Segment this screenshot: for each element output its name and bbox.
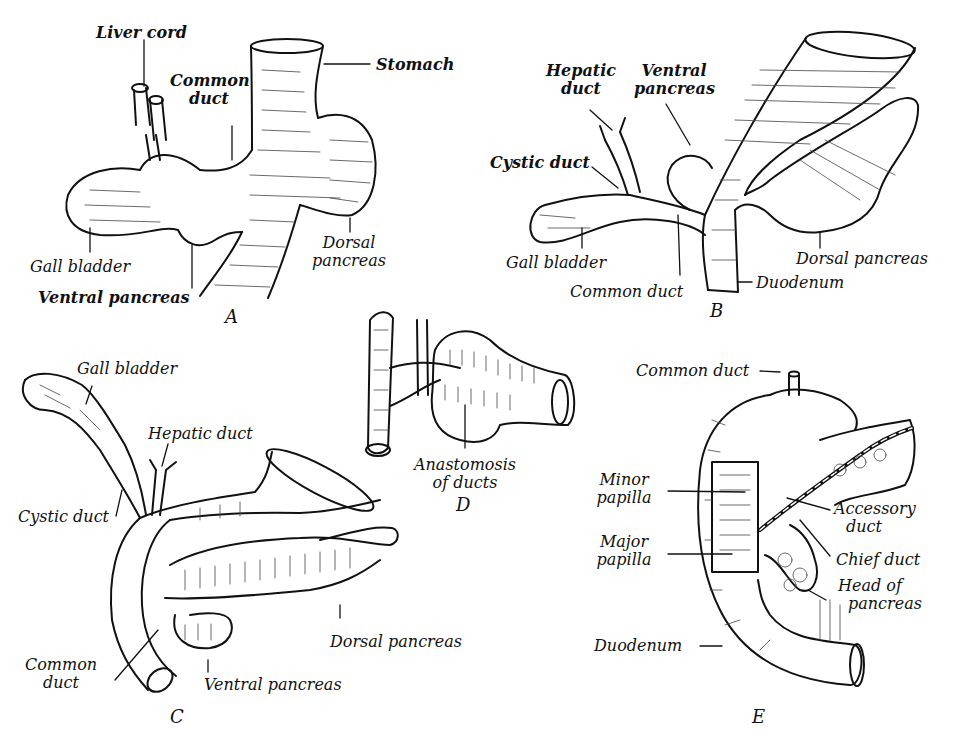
label-a-liver-cord: Liver cord: [96, 24, 187, 42]
label-c-common-duct-line1: Common: [20, 656, 102, 674]
label-e-major-papilla-line2: papilla: [586, 551, 662, 569]
label-b-dorsal-pancreas: Dorsal pancreas: [796, 250, 928, 268]
label-e-duodenum: Duodenum: [594, 637, 682, 655]
label-c-cystic-duct: Cystic duct: [18, 508, 109, 526]
label-e-head-of-pancreas-line2: pancreas: [838, 595, 922, 613]
label-a-dorsal-pancreas-line1: Dorsal: [308, 234, 390, 252]
label-c-gall-bladder: Gall bladder: [77, 360, 177, 378]
label-e-major-papilla: Major papilla: [586, 533, 662, 569]
label-e-head-of-pancreas-line1: Head of: [838, 577, 922, 595]
label-b-hepatic-duct: Hepatic duct: [546, 62, 616, 98]
label-a-gall-bladder: Gall bladder: [30, 258, 130, 276]
label-e-minor-papilla-line2: papilla: [586, 489, 662, 507]
label-b-hepatic-duct-line2: duct: [546, 80, 616, 98]
label-c-dorsal-pancreas: Dorsal pancreas: [330, 633, 462, 651]
label-a-common-duct: Common duct: [170, 72, 248, 108]
label-d-anastomosis: Anastomosis of ducts: [410, 456, 520, 492]
label-b-ventral-pancreas: Ventral pancreas: [634, 62, 714, 98]
label-e-chief-duct: Chief duct: [836, 551, 920, 569]
label-b-common-duct: Common duct: [570, 283, 683, 301]
label-c-hepatic-duct: Hepatic duct: [148, 425, 253, 443]
panel-letter-b: B: [710, 300, 723, 321]
label-e-minor-papilla-line1: Minor: [586, 471, 662, 489]
label-c-common-duct-line2: duct: [20, 674, 102, 692]
panel-letter-a: A: [225, 306, 238, 327]
label-b-gall-bladder: Gall bladder: [506, 254, 606, 272]
label-e-head-of-pancreas: Head of pancreas: [838, 577, 922, 613]
panel-d-drawing: [366, 312, 574, 456]
label-a-ventral-pancreas: Ventral pancreas: [38, 289, 190, 307]
label-a-stomach-text: Stomach: [376, 56, 454, 74]
label-a-dorsal-pancreas-line2: pancreas: [308, 252, 390, 270]
label-b-cystic-duct: Cystic duct: [490, 154, 590, 172]
label-a-common-duct-line2: duct: [170, 90, 248, 108]
label-b-ventral-pancreas-line1: Ventral: [634, 62, 714, 80]
panel-letter-e: E: [752, 706, 765, 727]
label-d-anastomosis-line1: Anastomosis: [410, 456, 520, 474]
label-c-ventral-pancreas: Ventral pancreas: [204, 676, 342, 694]
panel-letter-c: C: [170, 706, 184, 727]
label-b-hepatic-duct-line1: Hepatic: [546, 62, 616, 80]
label-b-ventral-pancreas-line2: pancreas: [634, 80, 714, 98]
label-e-accessory-duct-line1: Accessory: [834, 500, 916, 518]
label-a-dorsal-pancreas: Dorsal pancreas: [308, 234, 390, 270]
label-e-accessory-duct-line2: duct: [834, 518, 916, 536]
label-c-common-duct: Common duct: [20, 656, 102, 692]
label-b-duodenum: Duodenum: [756, 274, 844, 292]
label-e-minor-papilla: Minor papilla: [586, 471, 662, 507]
label-e-accessory-duct: Accessory duct: [834, 500, 916, 536]
panel-letter-d: D: [456, 494, 470, 515]
label-d-anastomosis-line2: of ducts: [410, 474, 520, 492]
label-e-major-papilla-line1: Major: [586, 533, 662, 551]
label-a-common-duct-line1: Common: [170, 72, 248, 90]
label-e-common-duct: Common duct: [636, 362, 749, 380]
